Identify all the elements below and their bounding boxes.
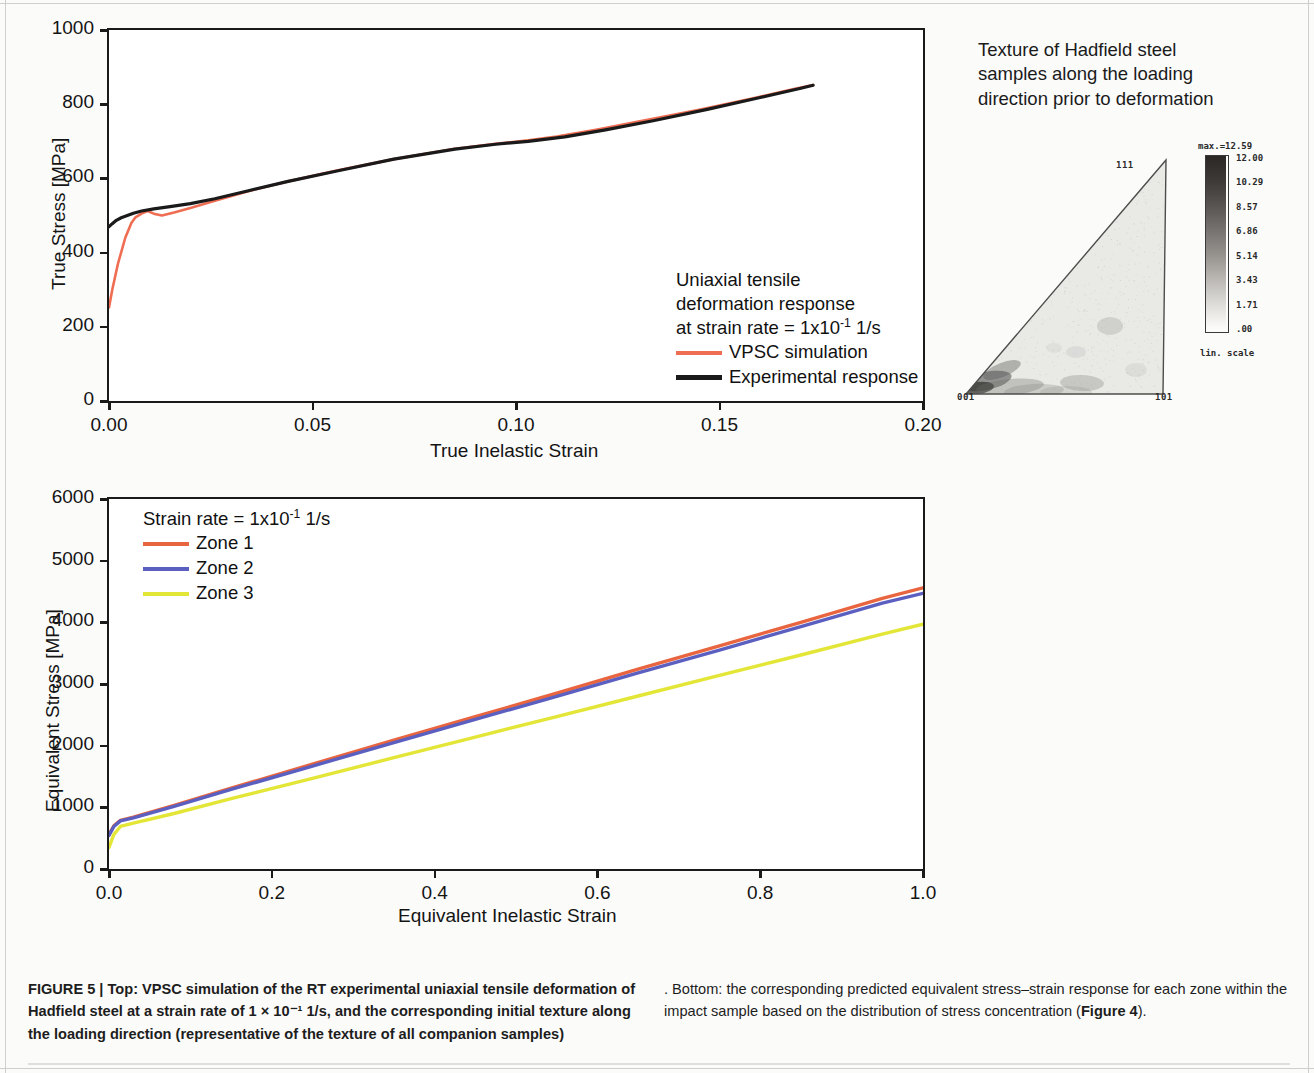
- zone2-legend-label: Zone 2: [196, 556, 254, 580]
- x-tick-label: 0.10: [466, 414, 566, 436]
- bottom-legend-item-zone1: Zone 1: [143, 531, 330, 556]
- texture-scale-level-label: 1.71: [1236, 300, 1282, 310]
- top-legend-exponent: -1: [840, 316, 851, 330]
- texture-panel-title: Texture of Hadfield steel samples along …: [978, 38, 1298, 111]
- top-legend-strainrate-text: at strain rate = 1x10: [676, 317, 840, 338]
- y-tick-label: 0: [4, 388, 94, 410]
- ipf-corner-label-111: 111: [1116, 160, 1134, 170]
- y-tick-label: 0: [4, 856, 94, 878]
- y-tick-mark: [100, 806, 109, 809]
- texture-scale-level-label: 5.14: [1236, 251, 1282, 261]
- x-tick-label: 0.8: [710, 882, 810, 904]
- x-tick-mark: [922, 401, 925, 410]
- top-legend-unit: 1/s: [851, 317, 881, 338]
- figure-caption-left-column: FIGURE 5 | Top: VPSC simulation of the R…: [28, 978, 640, 1045]
- x-tick-mark: [515, 401, 518, 410]
- texture-scale-gradient: [1206, 156, 1226, 330]
- bottom-chart-y-axis-label: Equivalent Stress [MPa]: [42, 609, 64, 812]
- figure-caption-bold-part: FIGURE 5 | Top: VPSC simulation of the R…: [28, 981, 635, 1042]
- caption-bottom-rule: [28, 1063, 1290, 1065]
- y-tick-label: 6000: [4, 486, 94, 508]
- figure-caption-plain-part: . Bottom: the corresponding predicted eq…: [664, 981, 1287, 1019]
- x-tick-label: 1.0: [873, 882, 973, 904]
- x-tick-mark: [108, 869, 111, 878]
- vpsc-legend-label: VPSC simulation: [729, 340, 868, 364]
- y-tick-mark: [100, 103, 109, 106]
- top-chart-legend: Uniaxial tensile deformation response at…: [676, 268, 918, 390]
- y-tick-label: 200: [4, 314, 94, 336]
- figure-caption-reference: Figure 4: [1081, 1003, 1138, 1019]
- page-edge-right: [1308, 0, 1309, 1073]
- top-chart-x-axis-label: True Inelastic Strain: [430, 440, 598, 462]
- y-tick-mark: [100, 683, 109, 686]
- x-tick-mark: [434, 869, 437, 878]
- ipf-corner-label-101: 101: [1155, 392, 1173, 402]
- bottom-legend-item-zone2: Zone 2: [143, 556, 330, 581]
- bottom-legend-strainrate-text: Strain rate = 1x10: [143, 508, 290, 529]
- y-tick-mark: [100, 29, 109, 32]
- bottom-legend-unit: 1/s: [300, 508, 330, 529]
- x-tick-label: 0.2: [222, 882, 322, 904]
- x-tick-mark: [271, 869, 274, 878]
- x-tick-label: 0.20: [873, 414, 973, 436]
- x-tick-mark: [922, 869, 925, 878]
- x-tick-label: 0.15: [670, 414, 770, 436]
- x-tick-mark: [596, 869, 599, 878]
- x-tick-mark: [759, 869, 762, 878]
- y-tick-mark: [100, 560, 109, 563]
- bottom-chart-legend: Strain rate = 1x10-1 1/s Zone 1 Zone 2 Z…: [143, 507, 330, 606]
- top-legend-line1: Uniaxial tensile: [676, 268, 918, 292]
- x-tick-mark: [719, 401, 722, 410]
- top-chart-y-axis-label: True Stress [MPa]: [48, 138, 70, 290]
- y-tick-label: 5000: [4, 548, 94, 570]
- texture-scale-level-label: 12.00: [1236, 153, 1282, 163]
- top-legend-line2: deformation response: [676, 292, 918, 316]
- texture-scale-level-label: .00: [1236, 324, 1282, 334]
- x-tick-mark: [312, 401, 315, 410]
- bottom-legend-exponent: -1: [290, 507, 301, 521]
- bottom-legend-item-zone3: Zone 3: [143, 581, 330, 606]
- y-tick-label: 1000: [4, 17, 94, 39]
- inverse-pole-figure: [958, 148, 1208, 413]
- figure-caption-end: ).: [1138, 1003, 1147, 1019]
- texture-scale-type-label: lin. scale: [1200, 348, 1254, 358]
- figure-page: 020040060080010000.000.050.100.150.20 Tr…: [0, 0, 1314, 1073]
- y-tick-mark: [100, 326, 109, 329]
- y-tick-label: 800: [4, 91, 94, 113]
- zone3-legend-label: Zone 3: [196, 581, 254, 605]
- zone2-line-swatch: [143, 567, 189, 571]
- x-tick-label: 0.4: [385, 882, 485, 904]
- page-edge-left: [5, 0, 6, 1073]
- experimental-line-swatch: [676, 375, 722, 380]
- y-tick-mark: [100, 498, 109, 501]
- experimental-legend-label: Experimental response: [729, 365, 918, 389]
- ipf-corner-label-001: 001: [957, 392, 975, 402]
- zone3-line-swatch: [143, 592, 189, 596]
- y-tick-mark: [100, 621, 109, 624]
- texture-scale-max-label: max.=12.59: [1198, 141, 1252, 151]
- y-tick-mark: [100, 177, 109, 180]
- zone1-line-swatch: [143, 542, 189, 546]
- top-legend-item-experimental: Experimental response: [676, 365, 918, 390]
- x-tick-label: 0.0: [59, 882, 159, 904]
- bottom-legend-header: Strain rate = 1x10-1 1/s: [143, 507, 330, 531]
- top-legend-line3: at strain rate = 1x10-1 1/s: [676, 316, 918, 340]
- x-tick-label: 0.6: [547, 882, 647, 904]
- y-tick-mark: [100, 745, 109, 748]
- x-tick-label: 0.00: [59, 414, 159, 436]
- texture-scale-level-label: 6.86: [1236, 226, 1282, 236]
- page-edge-top: [0, 3, 1314, 4]
- top-legend-item-vpsc: VPSC simulation: [676, 340, 918, 365]
- zone1-legend-label: Zone 1: [196, 531, 254, 555]
- x-tick-label: 0.05: [263, 414, 363, 436]
- texture-scale-level-label: 10.29: [1236, 177, 1282, 187]
- texture-scale-bar: [1205, 155, 1229, 333]
- bottom-chart-x-axis-label: Equivalent Inelastic Strain: [398, 905, 617, 927]
- page-edge-bottom: [0, 1068, 1314, 1069]
- texture-scale-level-label: 3.43: [1236, 275, 1282, 285]
- vpsc-line-swatch: [676, 351, 722, 355]
- figure-caption-right-column: . Bottom: the corresponding predicted eq…: [664, 978, 1290, 1023]
- y-tick-mark: [100, 252, 109, 255]
- texture-scale-level-label: 8.57: [1236, 202, 1282, 212]
- x-tick-mark: [108, 401, 111, 410]
